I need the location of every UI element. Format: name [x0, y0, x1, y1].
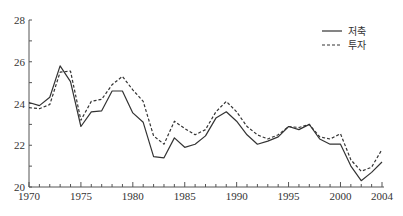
legend-label-savings: 저축: [348, 26, 366, 37]
line-chart: 2022242628197019751980198519901995200020…: [0, 0, 403, 216]
y-tick-label: 28: [14, 14, 26, 26]
x-tick-label: 1995: [278, 190, 301, 202]
y-tick-label: 24: [14, 98, 26, 110]
series-lines: [29, 66, 382, 181]
series-savings-line: [29, 66, 382, 181]
y-tick-label: 22: [14, 139, 25, 151]
x-tick-label: 1980: [122, 190, 145, 202]
x-tick-label: 1985: [174, 190, 197, 202]
y-tick-label: 26: [14, 56, 26, 68]
x-tick-label: 2004: [371, 190, 394, 202]
legend: 저축 투자: [322, 26, 366, 51]
x-tick-label: 1975: [70, 190, 93, 202]
x-tick-label: 2000: [329, 190, 352, 202]
x-tick-label: 1970: [18, 190, 41, 202]
x-tick-label: 1990: [226, 190, 249, 202]
legend-label-investment: 투자: [348, 40, 366, 51]
series-investment-line: [29, 71, 382, 171]
axes: 2022242628197019751980198519901995200020…: [14, 14, 394, 202]
